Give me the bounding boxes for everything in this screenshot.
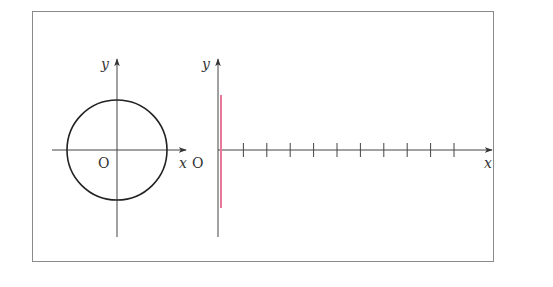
left-origin-label: O <box>98 155 109 171</box>
diagram-figure: O x y O x y <box>0 0 553 287</box>
left-y-axis-label: y <box>100 56 110 72</box>
left-x-axis-label: x <box>179 155 187 171</box>
right-plot: O x y <box>192 56 492 237</box>
right-x-axis-label: x <box>484 155 492 171</box>
left-plot: O x y <box>52 56 187 237</box>
figure-frame <box>33 12 494 262</box>
right-y-axis-label: y <box>201 56 211 72</box>
right-origin-label: O <box>192 155 203 171</box>
